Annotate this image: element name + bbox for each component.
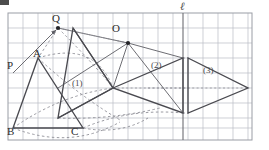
figure-canvas	[0, 0, 269, 150]
label-B: B	[7, 126, 14, 137]
figure-label-2: (2)	[151, 61, 162, 70]
point-Q	[56, 26, 60, 30]
figure-label-1: (1)	[72, 79, 83, 88]
label-C: C	[71, 126, 78, 137]
grid-lines	[8, 13, 252, 140]
figure-label-3: (3)	[203, 66, 214, 75]
label-P: P	[7, 60, 13, 71]
point-O	[126, 41, 130, 45]
label-line-ell: ℓ	[180, 1, 185, 12]
label-A: A	[33, 48, 41, 59]
label-Q: Q	[52, 13, 60, 24]
geometry-figure: P A Q O B C ℓ (1) (2) (3)	[0, 0, 269, 150]
label-O: O	[112, 23, 120, 34]
